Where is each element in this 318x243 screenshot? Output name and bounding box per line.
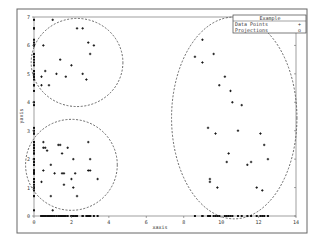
x-projection-marker [40, 215, 42, 217]
x-projection-marker [216, 215, 218, 217]
y-tick-label: 3 [27, 128, 30, 134]
x-projection-marker [256, 215, 258, 217]
y-projection-marker [33, 147, 35, 149]
y-tick-label: 6 [27, 42, 30, 48]
y-projection-marker [33, 39, 35, 41]
x-projection-marker [44, 215, 46, 217]
x-tick-label: 14 [293, 219, 299, 225]
y-axis-label: yaxis [18, 108, 25, 123]
x-projection-marker [194, 215, 196, 217]
x-projection-marker [230, 215, 232, 217]
x-projection-marker [72, 215, 74, 217]
y-projection-marker [33, 172, 35, 174]
x-projection-marker [215, 215, 217, 217]
x-projection-marker [97, 215, 99, 217]
x-tick-label: 2 [70, 219, 73, 225]
y-projection-marker [33, 161, 35, 163]
x-projection-marker [250, 215, 252, 217]
x-axis-label: xaxis [152, 224, 167, 230]
y-projection-marker [33, 104, 35, 106]
y-tick-label: 2 [27, 156, 30, 162]
y-tick-label: 1 [27, 185, 30, 191]
x-projection-marker [54, 215, 56, 217]
y-projection-marker [33, 84, 35, 86]
y-projection-marker [33, 79, 35, 81]
x-projection-marker [67, 215, 69, 217]
x-projection-marker [263, 215, 265, 217]
y-projection-marker [33, 127, 35, 129]
x-projection-marker [59, 215, 61, 217]
scatter-chart: 02468101214 01234567 xaxis yaxis Example… [0, 0, 318, 243]
x-projection-marker [224, 215, 226, 217]
y-projection-marker [33, 209, 35, 211]
y-projection-marker [33, 195, 35, 197]
y-projection-marker [33, 141, 35, 143]
x-projection-marker [231, 215, 233, 217]
y-projection-marker [33, 42, 35, 44]
y-projection-marker [33, 61, 35, 63]
x-projection-marker [89, 215, 91, 217]
x-projection-marker [55, 215, 57, 217]
outer-frame [17, 9, 307, 233]
x-projection-marker [76, 215, 78, 217]
x-projection-marker [207, 215, 209, 217]
y-tick-label: 4 [27, 99, 30, 105]
x-projection-marker [213, 215, 215, 217]
x-projection-marker [259, 215, 261, 217]
x-tick-label: 8 [182, 219, 185, 225]
x-projection-marker [65, 215, 67, 217]
x-projection-marker [201, 215, 203, 217]
x-projection-marker [228, 215, 230, 217]
y-tick-label: 0 [27, 213, 30, 219]
x-tick-label: 0 [32, 219, 35, 225]
y-projection-marker [33, 53, 35, 55]
y-projection-marker [33, 133, 35, 135]
y-projection-marker [33, 76, 35, 78]
y-projection-marker [33, 152, 35, 154]
y-projection-marker [33, 19, 35, 21]
x-projection-marker [246, 215, 248, 217]
x-tick-label: 10 [218, 219, 224, 225]
y-projection-marker [33, 144, 35, 146]
y-projection-marker [33, 27, 35, 29]
y-projection-marker [33, 64, 35, 66]
x-projection-marker [261, 215, 263, 217]
y-projection-marker [33, 150, 35, 152]
x-projection-marker [63, 215, 65, 217]
y-projection-marker [33, 164, 35, 166]
y-projection-marker [33, 170, 35, 172]
x-tick-label: 6 [145, 219, 148, 225]
y-tick-label: 5 [27, 71, 30, 77]
x-projection-marker [52, 215, 54, 217]
y-projection-marker [33, 59, 35, 61]
y-projection-marker [33, 178, 35, 180]
x-projection-marker [50, 215, 52, 217]
x-projection-marker [42, 215, 44, 217]
x-projection-marker [85, 215, 87, 217]
x-projection-marker [226, 215, 228, 217]
y-projection-marker [33, 90, 35, 92]
x-projection-marker [57, 215, 59, 217]
y-projection-marker [33, 189, 35, 191]
x-projection-marker [48, 215, 50, 217]
legend: Example Data Points + Projections o [233, 15, 306, 34]
x-projection-marker [237, 215, 239, 217]
x-projection-marker [82, 215, 84, 217]
legend-marker-circle-icon: o [298, 27, 301, 33]
x-projection-marker [87, 215, 89, 217]
x-projection-marker [46, 215, 48, 217]
y-projection-marker [33, 184, 35, 186]
x-projection-marker [267, 215, 269, 217]
x-projection-marker [209, 215, 211, 217]
y-projection-marker [33, 70, 35, 72]
legend-entry-projections: Projections [235, 27, 268, 34]
chart-canvas: 02468101214 01234567 xaxis yaxis Example… [0, 0, 318, 243]
x-tick-label: 4 [107, 219, 110, 225]
x-tick-label: 12 [256, 219, 262, 225]
x-projection-marker [241, 215, 243, 217]
y-projection-marker [33, 181, 35, 183]
x-projection-marker [61, 215, 63, 217]
x-projection-marker [93, 215, 95, 217]
x-projection-marker [218, 215, 220, 217]
x-projection-marker [74, 215, 76, 217]
